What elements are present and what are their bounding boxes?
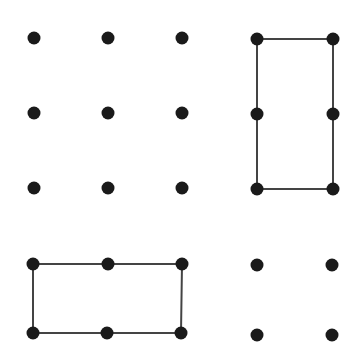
dot (102, 258, 115, 271)
dot (326, 259, 339, 272)
dot (28, 182, 41, 195)
top-right-vertical-rectangle (251, 33, 340, 196)
dot (176, 107, 189, 120)
dot (251, 108, 264, 121)
dot (101, 327, 114, 340)
dot (175, 327, 188, 340)
dot (28, 107, 41, 120)
dot (28, 32, 41, 45)
rectangle-outline (33, 264, 182, 333)
dot (176, 32, 189, 45)
dot (251, 33, 264, 46)
dot (327, 33, 340, 46)
dot (27, 258, 40, 271)
dot (27, 327, 40, 340)
dot (102, 32, 115, 45)
bottom-left-horizontal-rectangle (27, 258, 189, 340)
dot (102, 107, 115, 120)
top-left-dot-grid (28, 32, 189, 195)
dot (176, 258, 189, 271)
rectangle-outline (257, 39, 333, 189)
dot-figure-diagram (0, 0, 359, 359)
bottom-right-dot-grid (251, 259, 339, 342)
dot (327, 183, 340, 196)
dot (251, 183, 264, 196)
dot (102, 182, 115, 195)
dot (176, 182, 189, 195)
dot (251, 329, 264, 342)
dot (251, 259, 264, 272)
dot (326, 329, 339, 342)
dot (327, 108, 340, 121)
